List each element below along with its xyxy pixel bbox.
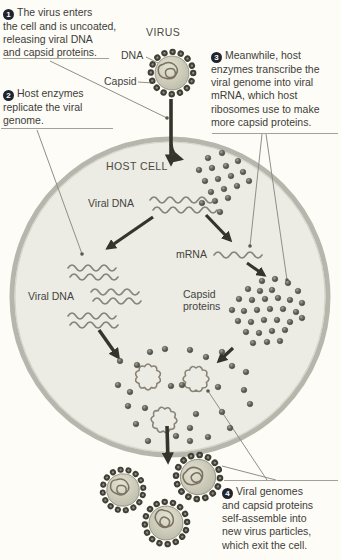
step-2-text: Host enzymes replicate the viral genome.: [3, 87, 84, 126]
step-3-number-badge: 3: [211, 52, 222, 63]
label-mrna: mRNA: [176, 248, 207, 260]
step-3-callout: 3Meanwhile, host enzymes transcribe the …: [211, 49, 341, 129]
step-1-rule: [3, 58, 109, 59]
step-1-callout: 1The virus enters the cell and is uncoat…: [3, 6, 137, 60]
step-2-callout: 2Host enzymes replicate the viral genome…: [3, 87, 125, 127]
label-capsid: Capsid: [104, 75, 137, 87]
step-1-number-badge: 1: [3, 9, 14, 20]
step-2-number-badge: 2: [3, 90, 14, 101]
figure-virus-replication: 1The virus enters the cell and is uncoat…: [0, 0, 341, 560]
step-3-text: Meanwhile, host enzymes transcribe the v…: [211, 49, 320, 128]
label-host-cell: HOST CELL: [106, 160, 168, 172]
step-4-number-badge: 4: [222, 488, 233, 499]
step-4-text: Viral genomes and capsid proteins self-a…: [222, 485, 313, 551]
label-viral-dna-top: Viral DNA: [88, 197, 134, 209]
label-viral-dna-replicated: Viral DNA: [28, 290, 74, 302]
step-4-callout: 4Viral genomes and capsid proteins self-…: [222, 485, 340, 552]
virus-icon: [151, 52, 193, 94]
label-virus: VIRUS: [146, 26, 180, 38]
new-virus-particles: [98, 449, 226, 553]
step-1-text: The virus enters the cell and is uncoate…: [3, 6, 116, 58]
step-4-rule: [224, 480, 338, 481]
step-2-rule: [1, 128, 113, 129]
step-3-rule: [212, 133, 338, 134]
arrow-exit-cell: [167, 426, 168, 461]
label-capsid-proteins: Capsid proteins: [183, 288, 235, 312]
label-dna: DNA: [121, 49, 143, 61]
